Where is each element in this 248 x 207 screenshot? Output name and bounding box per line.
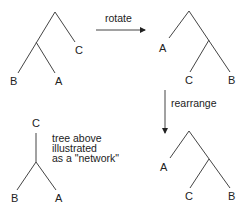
leaf-label: B: [228, 74, 235, 86]
leaf-label: C: [32, 117, 40, 129]
tree-rearranged: A C B: [160, 131, 235, 202]
leaf-label: A: [160, 161, 168, 173]
leaf-label: A: [55, 75, 63, 87]
note-line: as a "network": [52, 152, 119, 164]
rearrange-arrow: rearrange: [165, 90, 217, 133]
leaf-label: A: [55, 192, 63, 204]
rotate-arrow: rotate: [96, 12, 145, 30]
leaf-label: A: [159, 42, 167, 54]
leaf-label: B: [10, 75, 17, 87]
leaf-label: C: [185, 190, 193, 202]
tree-diagram: B A C rotate A C B rearrange A C B C B A: [0, 0, 248, 207]
tree-rotated: A C B: [159, 11, 235, 86]
leaf-label: C: [185, 74, 193, 86]
leaf-label: B: [228, 190, 235, 202]
network-note: tree above illustrated as a "network": [52, 132, 119, 164]
leaf-label: B: [11, 192, 18, 204]
tree-original: B A C: [10, 12, 83, 87]
leaf-label: C: [75, 44, 83, 56]
rearrange-label: rearrange: [171, 97, 217, 109]
rotate-label: rotate: [105, 12, 132, 24]
